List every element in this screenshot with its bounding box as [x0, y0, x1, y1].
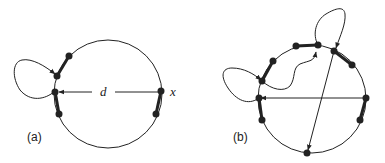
- node: [363, 95, 370, 102]
- node: [304, 150, 311, 157]
- node: [331, 48, 338, 55]
- panel-a: d x (a): [14, 40, 176, 148]
- figure-canvas: d x (a): [0, 0, 385, 163]
- node: [158, 88, 165, 95]
- node: [259, 78, 266, 85]
- node: [270, 58, 277, 65]
- loop-path-left: [223, 68, 261, 102]
- node: [349, 62, 356, 69]
- node: [259, 117, 266, 124]
- loop-path: [14, 60, 55, 99]
- node: [54, 73, 61, 80]
- distance-label: d: [100, 84, 107, 99]
- node: [66, 53, 73, 60]
- node: [293, 43, 300, 50]
- node: [315, 42, 322, 49]
- panel-label-a: (a): [27, 130, 42, 144]
- panel-b: (b): [223, 9, 369, 157]
- node: [153, 111, 160, 118]
- node: [52, 89, 59, 96]
- node: [357, 117, 364, 124]
- thick-edge: [156, 91, 161, 114]
- diagonal-chord: [308, 51, 334, 150]
- node: [256, 95, 263, 102]
- vertex-label-x: x: [169, 84, 176, 99]
- wavy-path: [262, 52, 316, 89]
- node: [56, 111, 63, 118]
- panel-label-b: (b): [233, 130, 248, 144]
